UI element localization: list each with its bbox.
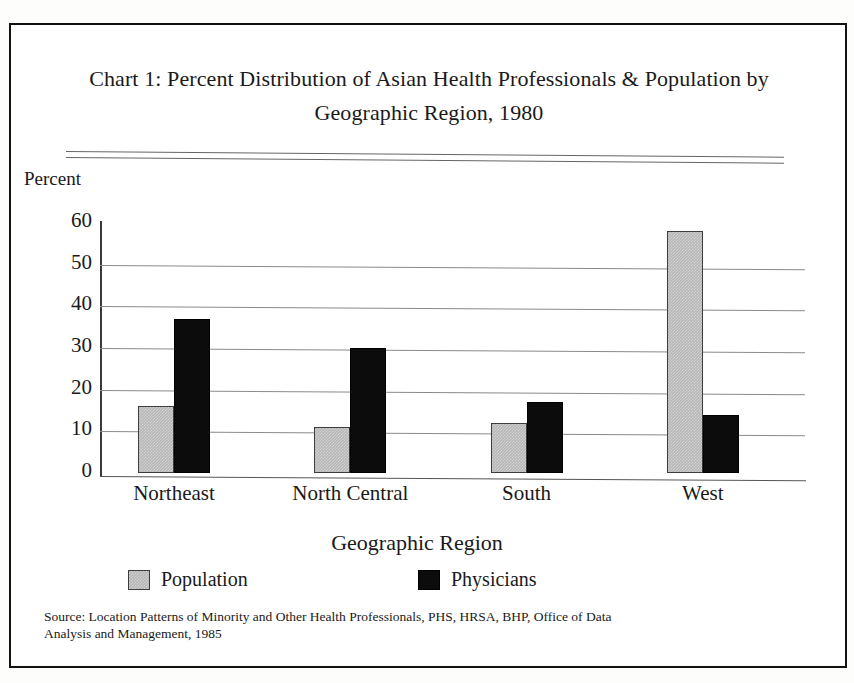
- x-tick-label-south: South: [502, 481, 551, 506]
- bar-group-west: [667, 223, 739, 473]
- source-note: Source: Location Patterns of Minority an…: [44, 608, 804, 642]
- bar-population-south[interactable]: [491, 423, 527, 473]
- y-axis-caption: Percent: [24, 168, 81, 190]
- bar-population-north-central[interactable]: [314, 427, 350, 473]
- bar-physicians-south[interactable]: [527, 402, 563, 473]
- x-tick-label-west: West: [682, 481, 723, 506]
- legend-item-physicians[interactable]: Physicians: [418, 568, 537, 591]
- y-tick-label-50: 50: [40, 250, 92, 275]
- chart-title-line-2: Geographic Region, 1980: [44, 96, 814, 130]
- y-tick-label-60: 60: [40, 208, 92, 233]
- x-axis-title: Geographic Region: [22, 530, 812, 556]
- chart-area: 0102030405060 NortheastNorth CentralSout…: [22, 205, 812, 495]
- chart-page: Chart 1: Percent Distribution of Asian H…: [0, 0, 854, 683]
- chart-legend: Population Physicians: [128, 568, 598, 594]
- source-line-1: Source: Location Patterns of Minority an…: [44, 608, 804, 625]
- y-tick-label-40: 40: [40, 291, 92, 316]
- y-tick-label-10: 10: [40, 416, 92, 441]
- legend-label-population: Population: [161, 568, 248, 591]
- bar-population-northeast[interactable]: [138, 406, 174, 473]
- bar-physicians-north-central[interactable]: [350, 348, 386, 473]
- chart-title-line-1: Chart 1: Percent Distribution of Asian H…: [44, 62, 814, 96]
- bar-group-south: [491, 223, 563, 473]
- y-tick-label-20: 20: [40, 375, 92, 400]
- title-rule-top: [66, 151, 784, 158]
- title-underline-rules: [66, 150, 784, 160]
- x-tick-label-northeast: Northeast: [133, 481, 215, 506]
- population-swatch-icon: [128, 570, 150, 590]
- plot-area: [100, 223, 805, 473]
- y-tick-label-30: 30: [40, 333, 92, 358]
- bar-group-north-central: [314, 223, 386, 473]
- x-tick-label-north-central: North Central: [292, 481, 408, 506]
- x-axis-category-labels: NortheastNorth CentralSouthWest: [100, 481, 806, 515]
- bar-group-northeast: [138, 223, 210, 473]
- source-line-2: Analysis and Management, 1985: [44, 625, 804, 642]
- chart-title: Chart 1: Percent Distribution of Asian H…: [44, 62, 814, 130]
- y-tick-label-0: 0: [40, 458, 92, 483]
- legend-item-population[interactable]: Population: [128, 568, 248, 591]
- y-axis-tick-labels: 0102030405060: [32, 205, 92, 485]
- physicians-swatch-icon: [418, 570, 440, 590]
- bar-physicians-west[interactable]: [703, 415, 739, 473]
- bar-physicians-northeast[interactable]: [174, 319, 210, 473]
- bar-population-west[interactable]: [667, 231, 703, 473]
- legend-label-physicians: Physicians: [451, 568, 537, 591]
